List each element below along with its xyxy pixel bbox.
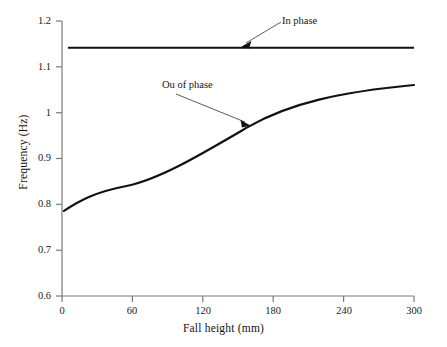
y-tick-label-6: 1.2: [18, 16, 51, 27]
x-tick-label-2: 120: [183, 306, 223, 317]
frequency-vs-fall-height-chart: 0.6 0.7 0.8 0.9 1 1.1 1.2 0 60 120 180 2…: [0, 0, 447, 347]
annotation-label-in-phase: In phase: [282, 16, 317, 27]
x-tick-label-3: 180: [253, 306, 293, 317]
chart-canvas: [0, 0, 447, 347]
y-tick-marks: [56, 21, 62, 296]
x-tick-label-4: 240: [324, 306, 364, 317]
y-tick-label-0: 0.6: [18, 291, 51, 302]
y-tick-label-1: 0.7: [18, 245, 51, 256]
x-tick-marks: [62, 296, 414, 302]
series-line-out-of-phase: [64, 85, 414, 211]
x-tick-label-5: 300: [394, 306, 434, 317]
annotation-label-out-of-phase: Ou of phase: [162, 80, 213, 91]
annotation-leader-in-phase: [246, 22, 281, 43]
y-tick-label-5: 1.1: [18, 62, 51, 73]
y-axis-title: Frequency (Hz): [17, 82, 29, 222]
x-axis-title: Fall height (mm): [0, 322, 447, 334]
annotation-leader-out-of-phase: [176, 94, 245, 122]
x-tick-label-1: 60: [112, 306, 152, 317]
x-tick-label-0: 0: [42, 306, 82, 317]
